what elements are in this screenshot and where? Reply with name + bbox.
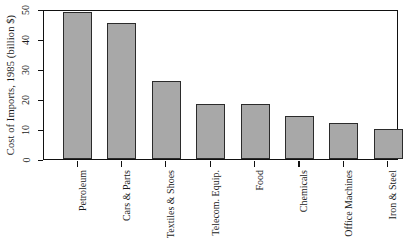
bar: [241, 104, 270, 160]
bar: [374, 129, 403, 159]
bar: [152, 81, 181, 159]
x-tick-mark: [121, 161, 122, 167]
bar: [107, 23, 136, 160]
x-tick-label: Chemicals: [291, 170, 305, 238]
x-tick-label: Petroleum: [70, 170, 84, 238]
bar: [196, 104, 225, 160]
x-tick-mark: [165, 161, 166, 167]
x-tick-mark: [298, 161, 299, 167]
x-tick-label: Telecom. Equip.: [203, 170, 217, 238]
x-tick-label: Office Machines: [336, 170, 350, 238]
x-tick-label: Textiles & Shoes: [158, 170, 172, 238]
y-tick-label: 10: [16, 123, 36, 137]
y-tick-label: 0: [16, 153, 36, 167]
y-axis-title-container: Cost of Imports, 1985 (billion $): [0, 0, 20, 170]
bar-chart-figure: Cost of Imports, 1985 (billion $) 010203…: [0, 0, 413, 240]
bar: [329, 123, 358, 159]
x-tick-mark: [77, 161, 78, 167]
y-tick-label: 50: [16, 3, 36, 17]
bar: [63, 12, 92, 159]
y-tick-label: 40: [16, 33, 36, 47]
x-tick-label: Cars & Parts: [114, 170, 128, 238]
y-tick-mark: [38, 160, 43, 161]
x-tick-mark: [343, 161, 344, 167]
x-tick-mark: [210, 161, 211, 167]
y-tick-label: 30: [16, 63, 36, 77]
y-axis-title: Cost of Imports, 1985 (billion $): [5, 15, 16, 155]
x-tick-mark: [254, 161, 255, 167]
x-tick-label: Food: [247, 170, 261, 238]
plot-area: [43, 10, 398, 160]
bar: [285, 116, 314, 159]
y-tick-label: 20: [16, 93, 36, 107]
x-tick-label: Iron & Steel: [380, 170, 394, 238]
x-tick-mark: [387, 161, 388, 167]
